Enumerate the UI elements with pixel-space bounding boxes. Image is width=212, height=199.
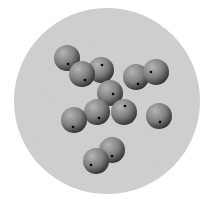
sphere-center-dot <box>67 63 70 66</box>
sphere <box>146 103 172 129</box>
sphere-center-dot <box>90 164 93 167</box>
sphere <box>111 99 137 125</box>
sphere-center-dot <box>150 71 153 74</box>
sphere <box>69 61 95 87</box>
sphere-center-dot <box>72 126 75 129</box>
sphere-center-dot <box>124 105 127 108</box>
sphere-center-dot <box>112 93 115 96</box>
sphere-body <box>146 103 172 129</box>
sphere <box>83 148 109 174</box>
sphere-body <box>69 61 95 87</box>
sphere <box>84 99 110 125</box>
sphere-body <box>111 99 137 125</box>
sphere-center-dot <box>137 83 140 86</box>
sphere-center-dot <box>84 79 87 82</box>
sphere <box>143 59 169 85</box>
sphere-body <box>61 107 87 133</box>
particle-scene <box>0 0 212 199</box>
sphere-center-dot <box>98 117 101 120</box>
sphere-center-dot <box>159 121 162 124</box>
sphere <box>61 107 87 133</box>
sphere-body <box>143 59 169 85</box>
sphere-body <box>84 99 110 125</box>
sphere-center-dot <box>101 64 104 67</box>
sphere-center-dot <box>111 155 114 158</box>
sphere-body <box>83 148 109 174</box>
